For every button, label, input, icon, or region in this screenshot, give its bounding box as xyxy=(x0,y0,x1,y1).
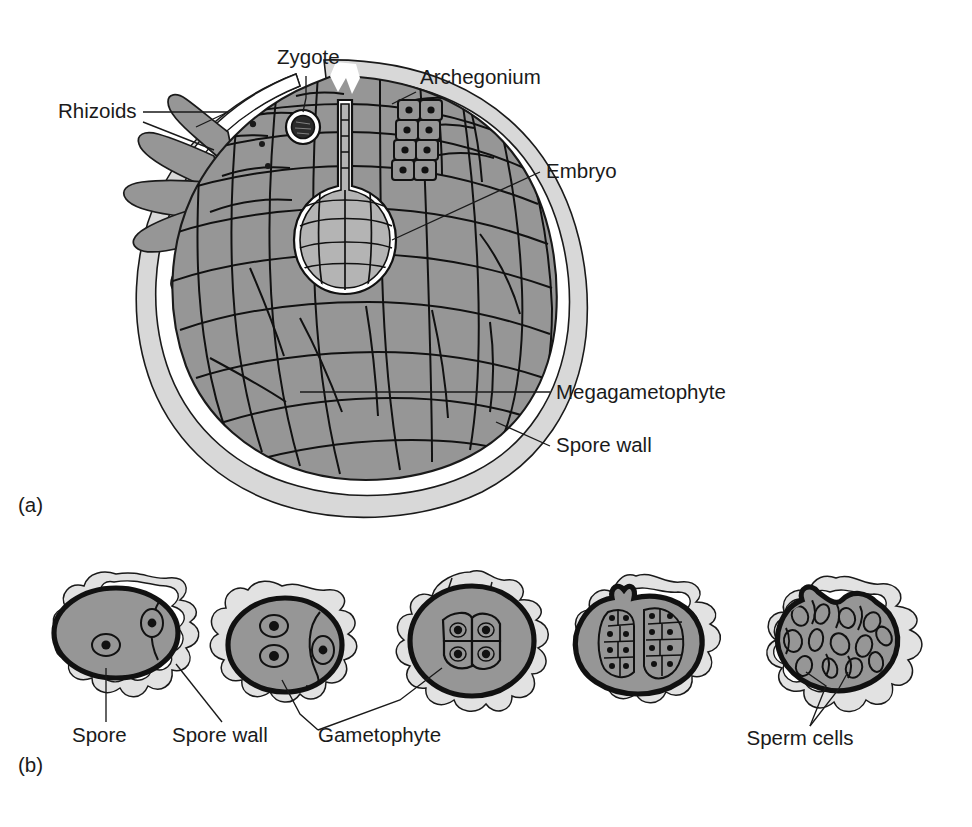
label-zygote: Zygote xyxy=(277,45,340,68)
label-megagametophyte: Megagametophyte xyxy=(556,380,726,403)
panel-label-a: (a) xyxy=(18,493,43,516)
spore-stage-1 xyxy=(53,572,198,697)
label-spore-wall-b: Spore wall xyxy=(172,723,268,746)
zygote-shape xyxy=(286,110,320,144)
label-rhizoids: Rhizoids xyxy=(58,99,137,122)
panel-b-group: Spore Spore wall Gametophyte Sperm cells… xyxy=(18,571,922,776)
label-spore: Spore xyxy=(72,723,127,746)
label-archegonium: Archegonium xyxy=(420,65,541,88)
leader-spore-wall-b xyxy=(176,664,222,722)
spore-stage-4 xyxy=(574,574,720,702)
label-embryo: Embryo xyxy=(546,159,617,182)
figure-canvas: Rhizoids Zygote Archegonium Embryo Megag… xyxy=(0,0,972,827)
archegonium-shape xyxy=(392,100,442,180)
spore-3-contents xyxy=(443,613,500,669)
panel-label-b: (b) xyxy=(18,753,43,776)
label-gametophyte: Gametophyte xyxy=(318,723,441,746)
label-spore-wall-a: Spore wall xyxy=(556,433,652,456)
spore-stage-3 xyxy=(396,571,548,712)
biology-diagram: Rhizoids Zygote Archegonium Embryo Megag… xyxy=(0,0,972,827)
panel-a-group: Rhizoids Zygote Archegonium Embryo Megag… xyxy=(18,45,726,517)
label-sperm-cells: Sperm cells xyxy=(746,726,853,749)
spore-stage-5 xyxy=(767,576,922,711)
